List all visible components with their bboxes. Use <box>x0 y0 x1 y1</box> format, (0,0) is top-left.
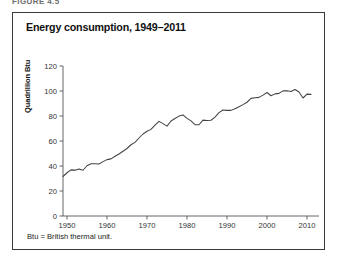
figure-label: FIGURE 4.5 <box>12 0 60 6</box>
svg-text:1970: 1970 <box>139 221 156 230</box>
line-chart-svg: 020406080100120 195019601970198019902000… <box>13 13 326 251</box>
energy-consumption-line <box>63 90 311 177</box>
plot-area: 020406080100120 195019601970198019902000… <box>13 13 326 251</box>
svg-text:1960: 1960 <box>99 221 116 230</box>
svg-text:0: 0 <box>53 212 57 221</box>
chart-footnote: Btu = British thermal unit. <box>27 232 112 241</box>
svg-text:1990: 1990 <box>219 221 236 230</box>
y-axis-ticks: 020406080100120 <box>44 62 63 221</box>
svg-text:2010: 2010 <box>299 221 316 230</box>
svg-text:80: 80 <box>49 112 57 121</box>
svg-text:1950: 1950 <box>59 221 76 230</box>
svg-text:20: 20 <box>49 187 57 196</box>
chart-container: Energy consumption, 1949–2011 Quadrillio… <box>12 12 325 250</box>
svg-text:60: 60 <box>49 137 57 146</box>
x-axis-ticks: 1950196019701980199020002010 <box>59 216 316 230</box>
svg-text:40: 40 <box>49 162 57 171</box>
svg-text:2000: 2000 <box>259 221 276 230</box>
svg-text:100: 100 <box>44 87 57 96</box>
svg-text:1980: 1980 <box>179 221 196 230</box>
svg-text:120: 120 <box>44 62 57 71</box>
